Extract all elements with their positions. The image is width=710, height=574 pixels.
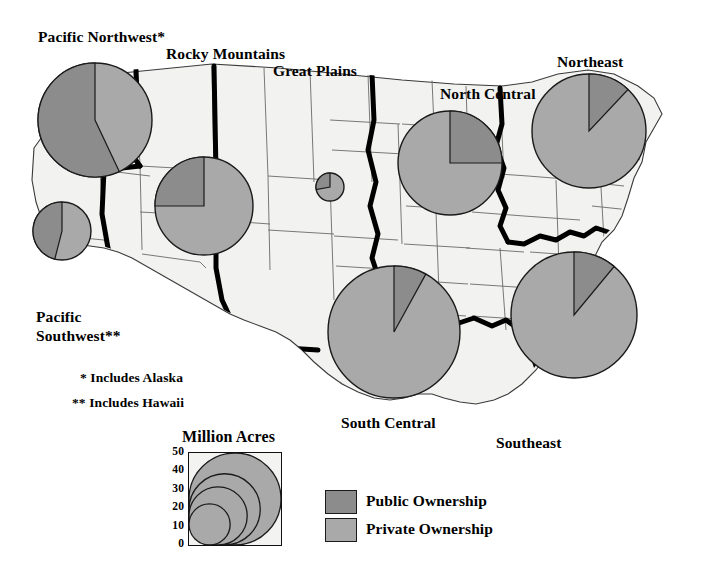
legend-label-private: Private Ownership bbox=[366, 520, 493, 538]
legend-swatch-public[interactable] bbox=[325, 490, 357, 514]
pie-southcentral[interactable] bbox=[328, 266, 460, 398]
pie-pacificsouthwest[interactable] bbox=[33, 202, 91, 260]
scale-tick-50: 50 bbox=[166, 445, 184, 457]
scale-circle-10 bbox=[189, 504, 230, 545]
pie-greatplains[interactable] bbox=[316, 173, 344, 201]
figure-canvas: Pacific Northwest*Rocky MountainsGreat P… bbox=[0, 0, 710, 574]
pie-northeast[interactable] bbox=[532, 74, 646, 188]
legend-label-public: Public Ownership bbox=[366, 492, 487, 510]
region-label-southeast: Southeast bbox=[496, 434, 562, 452]
footnote-hawaii: ** Includes Hawaii bbox=[72, 395, 184, 411]
pie-northcentral[interactable] bbox=[398, 111, 502, 215]
pie-pacificnorthwest[interactable] bbox=[38, 63, 152, 177]
pie-public-slice bbox=[450, 111, 502, 163]
scale-title: Million Acres bbox=[182, 428, 275, 446]
region-label-pacific-southwest: Pacific Southwest** bbox=[36, 307, 121, 345]
scale-circles bbox=[189, 453, 281, 545]
region-label-south-central: South Central bbox=[341, 414, 436, 432]
pie-public-slice bbox=[316, 173, 330, 190]
pie-public-slice bbox=[155, 157, 204, 206]
region-label-great-plains: Great Plains bbox=[273, 62, 357, 80]
scale-box bbox=[188, 452, 282, 546]
footnote-alaska: * Includes Alaska bbox=[80, 370, 183, 386]
scale-tick-30: 30 bbox=[166, 482, 184, 494]
legend-swatch-private[interactable] bbox=[325, 518, 357, 542]
pie-southeast[interactable] bbox=[511, 252, 637, 378]
region-label-pacific-northwest: Pacific Northwest* bbox=[38, 28, 165, 46]
region-pie-charts bbox=[0, 0, 710, 574]
scale-tick-20: 20 bbox=[166, 500, 184, 512]
region-label-rocky-mountains: Rocky Mountains bbox=[166, 45, 285, 63]
scale-tick-40: 40 bbox=[166, 463, 184, 475]
region-label-north-central: North Central bbox=[440, 85, 536, 103]
region-label-northeast: Northeast bbox=[557, 53, 623, 71]
scale-tick-10: 10 bbox=[166, 519, 184, 531]
pie-rockymountains[interactable] bbox=[155, 157, 253, 255]
scale-tick-0: 0 bbox=[166, 537, 184, 549]
